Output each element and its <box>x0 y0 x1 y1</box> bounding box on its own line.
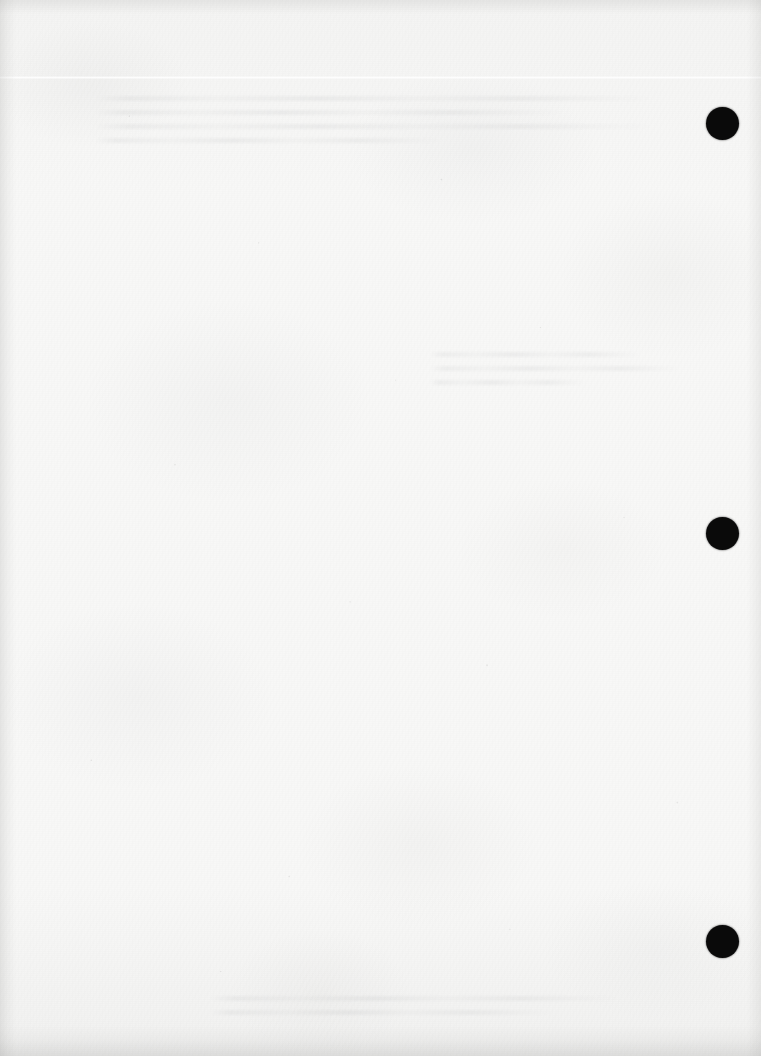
show-through-line <box>210 996 620 1001</box>
show-through-line <box>95 138 442 143</box>
paper-speckle-texture <box>0 0 761 1056</box>
page-edge-right <box>747 0 761 1056</box>
registration-mark-middle <box>706 517 739 550</box>
show-through-line <box>430 352 640 357</box>
show-through-line <box>430 366 680 371</box>
scan-seam-line <box>0 76 761 79</box>
page-edge-top <box>0 0 761 14</box>
page-text-content <box>0 0 1 1</box>
registration-mark-bottom <box>706 925 739 958</box>
page-edge-left <box>0 0 16 1056</box>
show-through-line <box>210 1010 554 1015</box>
paper-grain-texture <box>0 0 761 1056</box>
scanned-page <box>0 0 761 1056</box>
registration-mark-top <box>706 107 739 140</box>
show-through-top <box>95 96 655 152</box>
show-through-bottom <box>210 996 620 1024</box>
page-edge-bottom <box>0 1026 761 1056</box>
show-through-line <box>95 110 565 115</box>
show-through-middle <box>430 352 680 394</box>
show-through-line <box>430 380 585 385</box>
show-through-line <box>95 96 655 101</box>
show-through-line <box>95 124 655 129</box>
